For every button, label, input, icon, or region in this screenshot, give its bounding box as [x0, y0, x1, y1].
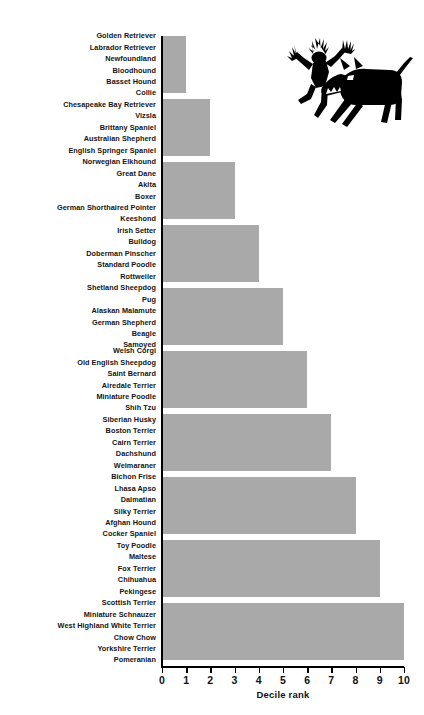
breed-label: Maltese [0, 551, 156, 562]
breed-label: West Highland White Terrier [0, 620, 156, 631]
breed-label: Silky Terrier [0, 506, 156, 517]
breed-label: Boston Terrier [0, 425, 156, 436]
breed-label: Bloodhound [0, 65, 156, 76]
breed-label: Dalmatian [0, 494, 156, 505]
bar [162, 36, 186, 93]
bar [162, 540, 380, 597]
breed-label: Saint Bernard [0, 368, 156, 379]
breed-label: Norwegian Elkhound [0, 156, 156, 167]
x-axis-tick [404, 667, 405, 673]
person-fleeing-dog-illustration [268, 32, 413, 137]
decile-rank-bar-chart: 012345678910 Decile rank Golden Retrieve… [0, 0, 424, 715]
bar [162, 414, 331, 471]
breed-label: Golden Retriever [0, 30, 156, 41]
breed-label: Akita [0, 179, 156, 190]
breed-label: Chihuahua [0, 574, 156, 585]
breed-label: Chow Chow [0, 632, 156, 643]
breed-label: Alaskan Malamute [0, 305, 156, 316]
breed-label: Bulldog [0, 236, 156, 247]
breed-label: Dachshund [0, 448, 156, 459]
breed-label: Boxer [0, 191, 156, 202]
breed-label: Bichon Frise [0, 471, 156, 482]
breed-group: Golden RetrieverLabrador RetrieverNewfou… [0, 30, 156, 99]
breed-label: Cocker Spaniel [0, 528, 156, 539]
breed-label: German Shepherd [0, 317, 156, 328]
bar [162, 477, 356, 534]
breed-label: Weimaraner [0, 460, 156, 471]
breed-group: Welsh CorgiOld English SheepdogSaint Ber… [0, 345, 156, 414]
breed-group: Norwegian ElkhoundGreat DaneAkitaBoxerGe… [0, 156, 156, 225]
breed-label: Standard Poodle [0, 259, 156, 270]
breed-label: Australian Shepherd [0, 133, 156, 144]
breed-label: Beagle [0, 328, 156, 339]
x-axis-tick [186, 667, 187, 673]
breed-group: Bichon FriseLhasa ApsoDalmatianSilky Ter… [0, 471, 156, 540]
breed-label: Toy Poodle [0, 540, 156, 551]
bar [162, 162, 235, 219]
x-axis-tick [356, 667, 357, 673]
breed-label: Fox Terrier [0, 563, 156, 574]
breed-group: Irish SetterBulldogDoberman PinscherStan… [0, 225, 156, 282]
x-axis-tick [380, 667, 381, 673]
breed-label: English Springer Spaniel [0, 145, 156, 156]
breed-label: Miniature Schnauzer [0, 609, 156, 620]
x-axis-tick [210, 667, 211, 673]
x-axis-tick [235, 667, 236, 673]
x-axis-tick [162, 667, 163, 673]
breed-label: Irish Setter [0, 225, 156, 236]
breed-label: Rottweiler [0, 271, 156, 282]
breed-group: Shetland SheepdogPugAlaskan MalamuteGerm… [0, 282, 156, 351]
breed-label: Doberman Pinscher [0, 248, 156, 259]
breed-label: Collie [0, 87, 156, 98]
breed-label: Pekingese [0, 586, 156, 597]
breed-label: Basset Hound [0, 76, 156, 87]
breed-label: Lhasa Apso [0, 483, 156, 494]
breed-group: Scottish TerrierMiniature SchnauzerWest … [0, 597, 156, 666]
y-axis-line [161, 36, 163, 666]
breed-label: Siberian Husky [0, 414, 156, 425]
breed-group: Chesapeake Bay RetrieverVizslaBrittany S… [0, 99, 156, 156]
x-axis-tick [259, 667, 260, 673]
breed-label: Newfoundland [0, 53, 156, 64]
x-axis-tick [331, 667, 332, 673]
bar [162, 603, 404, 660]
x-axis-tick [283, 667, 284, 673]
bar [162, 99, 210, 156]
breed-label: Pomeranian [0, 654, 156, 665]
breed-label: Brittany Spaniel [0, 122, 156, 133]
breed-label: Shetland Sheepdog [0, 282, 156, 293]
breed-label: Afghan Hound [0, 517, 156, 528]
breed-label: Pug [0, 294, 156, 305]
breed-label: Miniature Poodle [0, 391, 156, 402]
breed-label: Old English Sheepdog [0, 357, 156, 368]
person-fleeing-dog-silhouette [287, 38, 413, 127]
breed-label: Great Dane [0, 168, 156, 179]
breed-label: Labrador Retriever [0, 42, 156, 53]
breed-label: German Shorthaired Pointer [0, 202, 156, 213]
breed-label: Cairn Terrier [0, 437, 156, 448]
x-axis-tick-label: 10 [389, 674, 419, 686]
breed-label: Airedale Terrier [0, 380, 156, 391]
x-axis-tick [307, 667, 308, 673]
breed-group: Toy PoodleMalteseFox TerrierChihuahuaPek… [0, 540, 156, 597]
breed-label: Chesapeake Bay Retriever [0, 99, 156, 110]
bar [162, 351, 307, 408]
breed-label: Vizsla [0, 110, 156, 121]
bar [162, 288, 283, 345]
breed-label: Yorkshire Terrier [0, 643, 156, 654]
breed-label: Keeshond [0, 213, 156, 224]
breed-group: Siberian HuskyBoston TerrierCairn Terrie… [0, 414, 156, 471]
breed-label: Scottish Terrier [0, 597, 156, 608]
x-axis-title: Decile rank [162, 689, 404, 700]
bar [162, 225, 259, 282]
breed-label: Shih Tzu [0, 402, 156, 413]
breed-label: Welsh Corgi [0, 345, 156, 356]
